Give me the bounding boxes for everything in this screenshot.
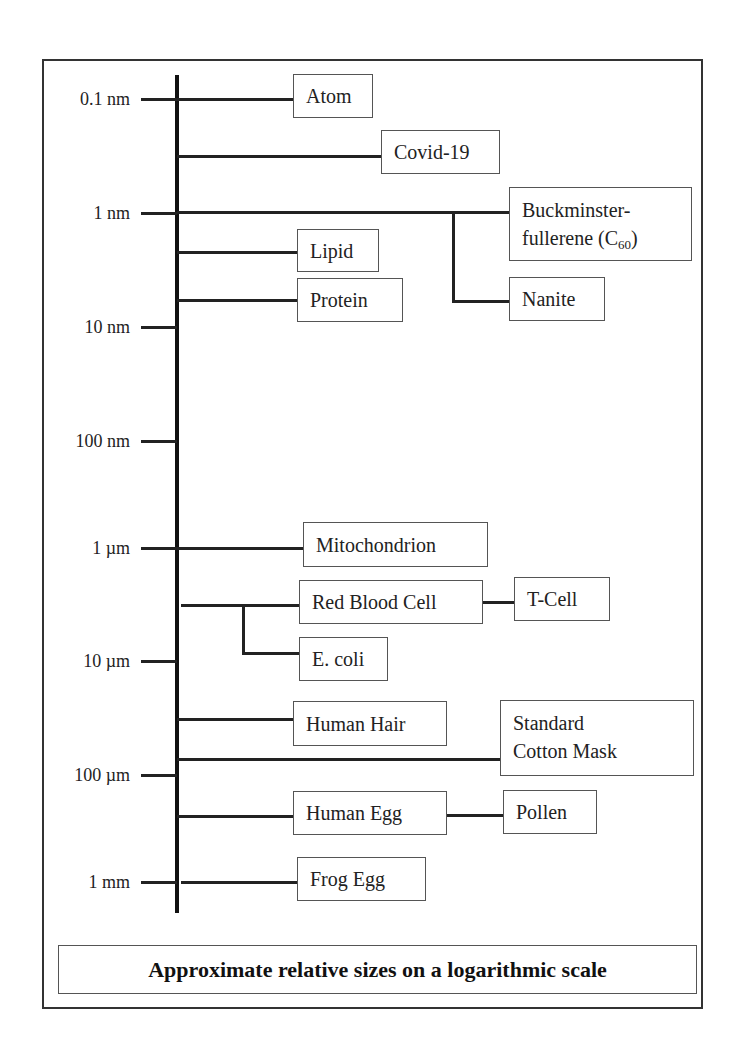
connector-t-cell (483, 601, 515, 604)
node-t-cell: T-Cell (514, 577, 610, 621)
tick-100um (141, 774, 177, 777)
branch-nanite (452, 211, 455, 303)
tick-100nm (141, 440, 177, 443)
log-scale-axis (175, 75, 179, 913)
connector-frog-egg (181, 881, 298, 884)
tick-0-1nm (141, 98, 177, 101)
tick-label-0-1nm: 0.1 nm (80, 89, 130, 109)
node-pollen-label: Pollen (516, 799, 567, 825)
tick-label-100nm: 100 nm (75, 431, 130, 451)
tick-label-1nm: 1 nm (93, 203, 130, 223)
node-covid-19: Covid-19 (381, 130, 500, 174)
connector-human-egg (177, 815, 294, 818)
connector-covid (177, 155, 382, 158)
tick-10nm (141, 326, 177, 329)
tick-10um (141, 660, 177, 663)
node-pollen: Pollen (503, 790, 597, 834)
buckminster-text: fullerene (C (522, 227, 618, 249)
node-buckminsterfullerene: Buckminster- fullerene (C60) (509, 187, 692, 261)
tick-1nm (141, 212, 177, 215)
connector-atom (177, 98, 294, 101)
tick-label-10um: 10 µm (83, 651, 130, 671)
node-mitochondrion-label: Mitochondrion (316, 532, 436, 558)
connector-human-hair (177, 718, 294, 721)
connector-protein (177, 299, 298, 302)
connector-mitochondrion (177, 547, 304, 550)
node-red-blood-cell-label: Red Blood Cell (312, 589, 436, 615)
connector-red-blood-cell (181, 604, 300, 607)
buckminster-subscript: 60 (618, 237, 631, 252)
connector-lipid (177, 251, 298, 254)
node-human-egg-label: Human Egg (306, 800, 402, 826)
size-scale-diagram: 0.1 nm 1 nm 10 nm 100 nm 1 µm 10 µm 100 … (0, 0, 739, 1063)
node-mask-line2: Cotton Mask (513, 737, 693, 765)
connector-cotton-mask (177, 758, 501, 761)
node-standard-cotton-mask: Standard Cotton Mask (500, 700, 694, 776)
node-mask-line1: Standard (513, 709, 693, 737)
node-nanite: Nanite (509, 277, 605, 321)
node-mitochondrion: Mitochondrion (303, 522, 488, 567)
node-human-hair-label: Human Hair (306, 711, 405, 737)
node-atom: Atom (293, 74, 373, 118)
tick-1mm (141, 881, 177, 884)
tick-label-10nm: 10 nm (84, 317, 130, 337)
tick-label-1mm: 1 mm (88, 872, 130, 892)
connector-pollen (447, 814, 504, 817)
node-buckminster-line2: fullerene (C60) (522, 224, 691, 252)
node-nanite-label: Nanite (522, 286, 575, 312)
node-red-blood-cell: Red Blood Cell (299, 580, 483, 624)
buckminster-close-paren: ) (631, 227, 638, 249)
node-atom-label: Atom (306, 83, 352, 109)
node-e-coli: E. coli (299, 637, 388, 681)
node-human-hair: Human Hair (293, 701, 447, 746)
connector-buckminsterfullerene (177, 211, 510, 214)
node-human-egg: Human Egg (293, 791, 447, 835)
connector-nanite (452, 300, 510, 303)
connector-e-coli (242, 652, 300, 655)
node-buckminster-line1: Buckminster- (522, 196, 691, 224)
node-e-coli-label: E. coli (312, 646, 364, 672)
tick-label-100um: 100 µm (74, 765, 130, 785)
diagram-caption: Approximate relative sizes on a logarith… (58, 945, 697, 994)
tick-1um (141, 547, 177, 550)
node-t-cell-label: T-Cell (527, 586, 577, 612)
node-covid-label: Covid-19 (394, 139, 470, 165)
branch-e-coli (242, 604, 245, 654)
node-protein: Protein (297, 278, 403, 322)
node-lipid: Lipid (297, 229, 379, 272)
node-lipid-label: Lipid (310, 238, 353, 264)
node-protein-label: Protein (310, 287, 368, 313)
node-frog-egg-label: Frog Egg (310, 866, 385, 892)
node-frog-egg: Frog Egg (297, 857, 426, 901)
tick-label-1um: 1 µm (92, 538, 130, 558)
